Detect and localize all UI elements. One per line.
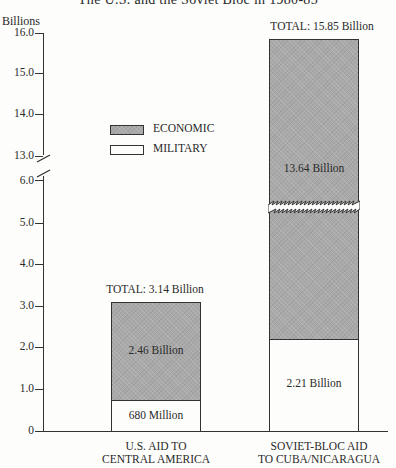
legend-label-economic: ECONOMIC (153, 122, 214, 134)
tick-label-16: 16.0 (0, 26, 34, 38)
us-economic-value: 2.46 Billion (112, 344, 200, 356)
category-line-2: TO CUBA/NICARAGUA (244, 453, 394, 466)
tick-label-2: 2.0 (0, 340, 34, 352)
soviet-military-bar: 2.21 Billion (269, 339, 359, 432)
legend-swatch-military (110, 145, 144, 155)
us-total-label: TOTAL: 3.14 Billion (80, 283, 230, 295)
tick-mark (35, 306, 43, 307)
chart-title: The U.S. and the Soviet Bloc in 1980-85 (0, 0, 396, 8)
y-axis-upper (43, 33, 44, 155)
tick-label-14: 14.0 (0, 107, 34, 119)
tick-mark (35, 347, 43, 348)
tick-label-13: 13.0 (0, 149, 34, 161)
tick-mark (35, 223, 43, 224)
us-military-bar: 680 Million (111, 400, 201, 432)
tick-mark (35, 389, 43, 390)
category-label-soviet: SOVIET-BLOC AID TO CUBA/NICARAGUA (244, 440, 394, 466)
soviet-economic-value: 13.64 Billion (270, 162, 358, 174)
tick-mark (35, 73, 43, 74)
tick-mark (35, 33, 43, 34)
legend-swatch-economic (110, 125, 144, 135)
soviet-economic-bar-lower (269, 204, 359, 340)
tick-mark (35, 156, 43, 157)
legend-label-military: MILITARY (153, 142, 208, 154)
soviet-military-value: 2.21 Billion (270, 377, 358, 389)
category-line-1: U.S. AID TO (86, 440, 226, 453)
tick-mark (35, 264, 43, 265)
tick-mark (35, 431, 43, 432)
tick-mark (35, 180, 43, 181)
us-military-value: 680 Million (112, 409, 200, 421)
category-label-us: U.S. AID TO CENTRAL AMERICA (86, 440, 226, 466)
soviet-total-label: TOTAL: 15.85 Billion (248, 20, 396, 32)
category-line-2: CENTRAL AMERICA (86, 453, 226, 466)
y-axis-lower (43, 176, 44, 432)
tick-mark (35, 114, 43, 115)
tick-label-5: 5.0 (0, 216, 34, 228)
us-economic-bar: 2.46 Billion (111, 302, 201, 401)
tick-label-3: 3.0 (0, 299, 34, 311)
category-line-1: SOVIET-BLOC AID (244, 440, 394, 453)
tick-label-4: 4.0 (0, 257, 34, 269)
tick-label-1: 1.0 (0, 382, 34, 394)
tick-label-6: 6.0 (0, 174, 34, 186)
soviet-economic-bar-upper: 13.64 Billion (269, 39, 359, 209)
bar-break-icon (268, 199, 360, 215)
axis-break-icon (36, 150, 52, 182)
tick-label-15: 15.0 (0, 66, 34, 78)
tick-label-0: 0 (0, 424, 34, 436)
